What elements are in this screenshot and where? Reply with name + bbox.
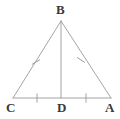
vertex-label-a: A bbox=[105, 101, 114, 114]
geometry-diagram: B C D A bbox=[0, 0, 120, 119]
segment-ba bbox=[61, 21, 111, 98]
vertex-label-b: B bbox=[56, 3, 65, 16]
tick-mark-ba-icon bbox=[77, 58, 84, 63]
segment-cb bbox=[13, 21, 61, 98]
vertex-label-c: C bbox=[6, 101, 15, 114]
vertex-label-d: D bbox=[57, 101, 66, 114]
